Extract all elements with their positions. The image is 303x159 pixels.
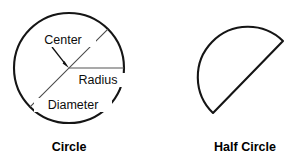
half-circle-figure: Half Circle <box>198 27 283 154</box>
caption-circle: Circle <box>52 140 87 154</box>
circle-figure: Center Radius Diameter Circle <box>14 13 128 154</box>
caption-half-circle: Half Circle <box>214 140 276 154</box>
annotation-label-radius: Radius <box>79 73 118 87</box>
annotation-label-center: Center <box>44 33 82 47</box>
figure-canvas: Center Radius Diameter Circle Half Circl… <box>0 0 303 159</box>
geometry-diagram: Center Radius Diameter Circle Half Circl… <box>0 0 303 159</box>
annotation-label-diameter: Diameter <box>48 98 99 112</box>
half-circle-outline <box>198 27 283 113</box>
